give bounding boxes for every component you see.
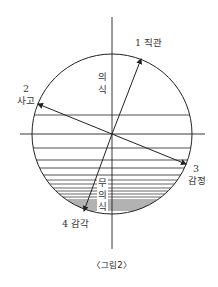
unconscious-char-2: 의 <box>98 189 107 200</box>
unconscious-char-1: 무 <box>98 177 107 188</box>
unconscious-label: 무 의 식 <box>97 177 108 212</box>
psyche-function-diagram: 의 식 무 의 식 1 직관 2 사고 3 감정 4 감각 〈그림2〉 <box>0 0 218 287</box>
label-thinking-name: 사고 <box>17 95 35 106</box>
label-intuition: 1 직관 <box>135 37 162 48</box>
figure-caption: 〈그림2〉 <box>92 260 131 270</box>
label-sensation: 4 감각 <box>62 218 89 229</box>
conscious-label: 의 식 <box>98 71 107 95</box>
conscious-char-2: 식 <box>98 84 107 95</box>
arrow-function-2 <box>38 104 112 134</box>
label-thinking-number: 2 <box>23 83 29 94</box>
label-feeling-number: 3 <box>193 163 199 174</box>
label-feeling-name: 감정 <box>188 175 206 186</box>
unconscious-char-3: 식 <box>98 201 107 212</box>
arrow-function-1 <box>112 59 141 134</box>
arrow-function-3 <box>112 134 186 164</box>
conscious-char-1: 의 <box>98 71 107 82</box>
